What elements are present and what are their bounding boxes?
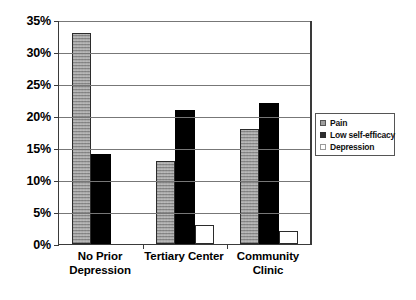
pain-swatch xyxy=(320,120,326,126)
y-axis-tick-label: 10% xyxy=(27,174,51,188)
chart-legend: PainLow self-efficacyDepression xyxy=(315,113,395,156)
y-axis-tick-label: 30% xyxy=(27,46,51,60)
x-axis-category-label: No Prior Depression xyxy=(58,249,142,277)
bar-depr xyxy=(195,225,215,244)
y-axis-tick-label: 5% xyxy=(33,206,51,220)
x-axis-category-labels: No Prior DepressionTertiary CenterCommun… xyxy=(58,249,310,295)
bar-chart: 0%5%10%15%20%25%30%35% No Prior Depressi… xyxy=(0,0,416,300)
y-axis-tick-label: 35% xyxy=(27,14,51,28)
legend-item-label: Depression xyxy=(330,142,374,152)
bar-pain xyxy=(240,129,260,244)
y-axis-tick-label: 15% xyxy=(27,142,51,156)
gridline xyxy=(59,21,310,22)
legend-item: Low self-efficacy xyxy=(320,129,391,140)
bar-depr xyxy=(279,231,299,244)
gridline xyxy=(59,213,310,214)
bar-lowse xyxy=(259,103,279,244)
y-axis-tick-label: 25% xyxy=(27,78,51,92)
legend-item: Depression xyxy=(320,141,391,152)
gridline xyxy=(59,149,310,150)
x-axis-category-label: Community Clinic xyxy=(226,249,310,277)
legend-item-label: Low self-efficacy xyxy=(330,130,395,140)
x-axis-category-label: Tertiary Center xyxy=(142,249,226,263)
gridline xyxy=(59,53,310,54)
y-axis-labels: 0%5%10%15%20%25%30%35% xyxy=(0,0,54,300)
depression-swatch xyxy=(320,144,326,150)
legend-item-label: Pain xyxy=(330,118,347,128)
gridline xyxy=(59,117,310,118)
plot-right-edge xyxy=(310,21,312,245)
y-axis-tick xyxy=(54,245,59,246)
legend-item: Pain xyxy=(320,117,391,128)
y-axis-tick-label: 20% xyxy=(27,110,51,124)
low-self-efficacy-swatch xyxy=(320,132,326,138)
bars-layer xyxy=(59,21,310,244)
y-axis-tick-label: 0% xyxy=(33,238,51,252)
bar-pain xyxy=(156,161,176,244)
plot-area xyxy=(58,21,310,245)
gridline xyxy=(59,85,310,86)
bar-lowse xyxy=(91,154,111,244)
bar-lowse xyxy=(175,110,195,244)
gridline xyxy=(59,181,310,182)
